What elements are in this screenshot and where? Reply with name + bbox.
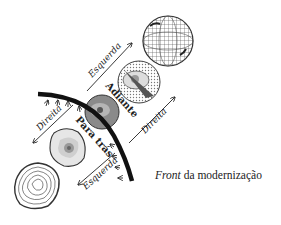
contour-disk-icon (15, 163, 59, 209)
label-direita-right: Direita (139, 106, 169, 136)
label-esquerda-upper: Esquerda (85, 41, 123, 80)
caption-italic: Front (155, 169, 181, 181)
diagram-caption: Front da modernização (155, 169, 262, 181)
label-esquerda-lower: Esquerda (80, 155, 120, 192)
globe-wireframe-icon (143, 16, 193, 66)
caption-rest: da modernização (181, 169, 262, 181)
modernization-front-diagram: Esquerda Direita Esquerda Direita Adiant… (0, 0, 281, 225)
flat-cell-icon (50, 129, 85, 167)
